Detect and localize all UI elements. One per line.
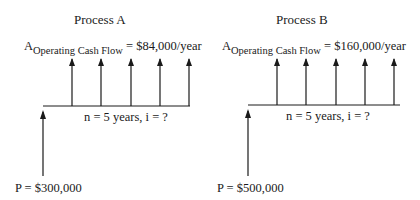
- annuity-subscript: Operating Cash Flow: [231, 45, 321, 56]
- process-b-present-value-label: P = $500,000: [217, 182, 284, 195]
- annuity-symbol: A: [24, 39, 33, 53]
- process-b-period-label: n = 5 years, i = ?: [286, 110, 370, 123]
- process-a-annuity-label: AOperating Cash Flow = $84,000/year: [24, 40, 202, 53]
- annuity-subscript: Operating Cash Flow: [33, 45, 123, 56]
- process-a-title: Process A: [74, 13, 126, 26]
- process-a-present-value-label: P = $300,000: [15, 182, 82, 195]
- process-b-title: Process B: [276, 13, 328, 26]
- process-b-annuity-label: AOperating Cash Flow = $160,000/year: [222, 40, 406, 53]
- annuity-value: = $84,000/year: [123, 39, 202, 53]
- process-a-period-label: n = 5 years, i = ?: [84, 111, 168, 124]
- process-a-annuity-arrows: [72, 59, 189, 106]
- annuity-symbol: A: [222, 39, 231, 53]
- cash-flow-diagrams-canvas: [0, 0, 420, 200]
- annuity-value: = $160,000/year: [321, 39, 406, 53]
